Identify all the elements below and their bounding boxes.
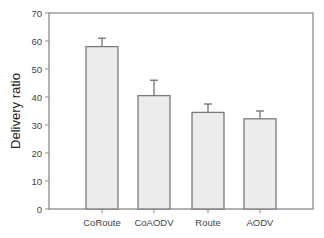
y-tick-label: 60 — [31, 36, 42, 47]
x-axis: CoRouteCoAODVRouteAODV — [83, 209, 274, 228]
bar-coroute — [86, 38, 118, 209]
bar-chart: 010203040506070 CoRouteCoAODVRouteAODV D… — [0, 0, 324, 238]
y-tick-label: 50 — [31, 64, 42, 75]
bar-rect — [138, 96, 170, 209]
y-axis-label: Delivery ratio — [8, 73, 23, 149]
bar-aodv — [244, 111, 276, 209]
y-tick-label: 10 — [31, 176, 42, 187]
bar-route — [192, 104, 224, 209]
bar-rect — [86, 47, 118, 209]
bar-rect — [192, 112, 224, 209]
bar-coaodv — [138, 80, 170, 209]
y-tick-label: 40 — [31, 92, 42, 103]
y-tick-label: 20 — [31, 148, 42, 159]
y-tick-label: 30 — [31, 120, 42, 131]
x-tick-label: CoAODV — [134, 217, 174, 228]
bars — [86, 38, 276, 209]
bar-rect — [244, 119, 276, 209]
y-tick-label: 70 — [31, 8, 42, 19]
y-axis: 010203040506070 — [31, 8, 49, 215]
x-tick-label: Route — [195, 217, 220, 228]
x-tick-label: AODV — [247, 217, 275, 228]
y-tick-label: 0 — [37, 204, 42, 215]
x-tick-label: CoRoute — [83, 217, 121, 228]
